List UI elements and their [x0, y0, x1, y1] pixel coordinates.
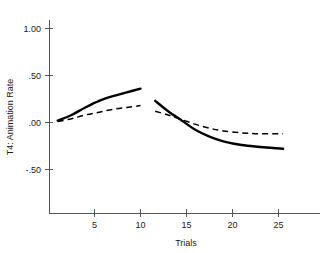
x-axis-title: Trials	[175, 238, 197, 248]
series-line-dashed-phase-1	[58, 106, 141, 122]
x-tick-label-2: 15	[181, 220, 191, 230]
y-axis-title: T4: Animation Rate	[5, 79, 15, 156]
x-tick-label-4: 25	[273, 220, 283, 230]
y-tick-label-1: .50	[28, 71, 41, 81]
line-chart: 1.00 .50 .00 -.50 5 10 15 20 25 Trials T…	[0, 0, 325, 253]
series-line-solid-phase-2	[155, 101, 283, 149]
x-tick-label-1: 10	[135, 220, 145, 230]
x-tick-label-3: 20	[227, 220, 237, 230]
y-tick-label-0: 1.00	[23, 24, 41, 34]
y-tick-label-2: .00	[28, 118, 41, 128]
series-line-solid-phase-1	[58, 89, 141, 121]
series-layer	[58, 89, 283, 149]
x-tick-label-0: 5	[92, 220, 97, 230]
y-tick-label-3: -.50	[25, 165, 41, 175]
chart-figure: 1.00 .50 .00 -.50 5 10 15 20 25 Trials T…	[0, 0, 325, 253]
